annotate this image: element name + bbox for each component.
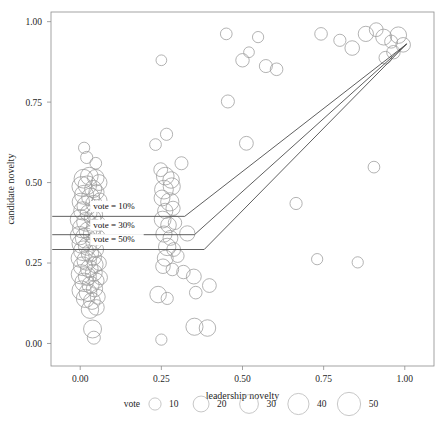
scatter-plot-canvas: 0.000.250.500.751.00 0.000.250.500.751.0…: [0, 0, 446, 427]
y-tick-label: 0.75: [25, 98, 42, 108]
x-tick-label: 1.00: [396, 374, 413, 384]
chart-figure: 0.000.250.500.751.00 0.000.250.500.751.0…: [0, 0, 446, 427]
y-tick-label: 0.25: [25, 258, 42, 268]
x-tick-label: 0.00: [72, 374, 89, 384]
legend-label-40: 40: [317, 399, 327, 409]
y-tick-label: 0.50: [25, 178, 42, 188]
y-axis-title: candidate novelty: [5, 154, 16, 225]
figure-background: [0, 0, 446, 427]
trend-line-annotations: vote = 10%vote = 30%vote = 50%: [90, 201, 144, 245]
legend-label-10: 10: [169, 399, 179, 409]
trend-line-label: vote = 10%: [93, 201, 135, 211]
x-tick-label: 0.50: [234, 374, 251, 384]
x-tick-label: 0.25: [153, 374, 170, 384]
x-tick-label: 0.75: [315, 374, 332, 384]
y-tick-label: 1.00: [25, 17, 42, 27]
trend-line-label: vote = 50%: [93, 234, 135, 244]
legend-title: vote: [124, 399, 140, 409]
y-tick-label: 0.00: [25, 339, 42, 349]
legend-label-50: 50: [369, 399, 379, 409]
legend-label-30: 30: [266, 399, 276, 409]
legend-label-20: 20: [217, 399, 227, 409]
trend-line-label: vote = 30%: [93, 220, 135, 230]
